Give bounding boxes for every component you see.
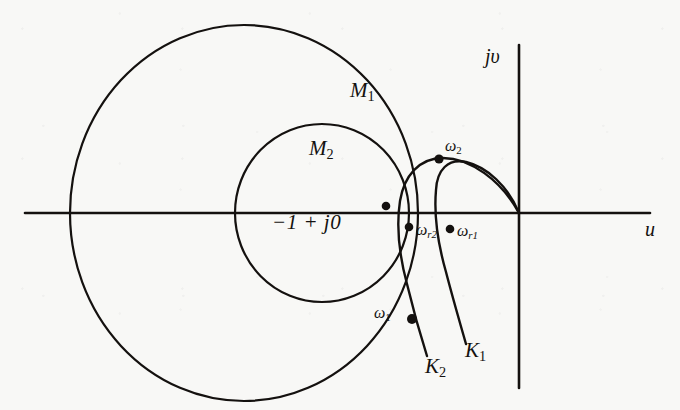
label-m2-letter: M (309, 136, 327, 160)
label-m2: M2 (309, 138, 334, 161)
label-m2-subscript: 2 (327, 146, 334, 162)
label-omega-2-letter: ω (445, 137, 456, 154)
label-m1-subscript: 1 (368, 88, 375, 104)
label-real-axis: u (645, 219, 655, 239)
label-k2-letter: K (425, 354, 439, 378)
label-omega-2: ω2 (445, 138, 462, 156)
label-omega-1-letter: ω (374, 304, 385, 321)
point-omega-r1 (446, 225, 455, 234)
label-omega-r2-letter: ω (416, 221, 427, 238)
label-imaginary-axis: jυ (485, 46, 500, 66)
label-m1: M1 (350, 80, 375, 103)
nyquist-figure: M1 M2 K2 K1 −1 + j0 ω2 ω1 ωr2 ωr1 jυ u (0, 0, 680, 410)
label-critical-point: −1 + j0 (272, 212, 341, 233)
label-omega-r2-subscript: r2 (427, 228, 437, 240)
point-omega-1 (407, 314, 417, 324)
point-critical (382, 202, 391, 211)
label-omega-r1-letter: ω (457, 222, 468, 239)
label-m1-letter: M (350, 78, 368, 102)
label-omega-r1: ωr1 (457, 223, 478, 241)
nyquist-locus-k1 (435, 161, 519, 344)
label-k1-letter: K (465, 338, 479, 362)
label-omega-1-subscript: 1 (385, 311, 390, 323)
label-omega-1: ω1 (374, 305, 391, 323)
label-k2: K2 (425, 356, 446, 379)
label-k1: K1 (465, 340, 486, 363)
point-omega-r2 (405, 223, 414, 232)
label-omega-r1-subscript: r1 (468, 229, 478, 241)
label-omega-2-subscript: 2 (456, 144, 461, 156)
label-k2-subscript: 2 (439, 364, 446, 380)
nyquist-plot-canvas (0, 0, 680, 410)
point-omega-2 (434, 154, 443, 163)
label-omega-r2: ωr2 (416, 222, 437, 240)
label-k1-subscript: 1 (479, 348, 486, 364)
